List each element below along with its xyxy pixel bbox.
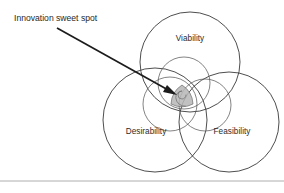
callout-leader-line [57, 28, 170, 91]
label-desirability: Desirability [126, 127, 167, 136]
venn-diagram-canvas: Viability Desirability Feasibility [0, 0, 284, 193]
label-feasibility: Feasibility [214, 127, 252, 136]
label-viability: Viability [176, 34, 205, 43]
venn-diagram-figure: Viability Desirability Feasibility Innov… [0, 0, 284, 193]
sweet-spot-group[interactable] [171, 85, 193, 107]
callout-label: Innovation sweet spot [14, 13, 97, 24]
circle-feasibility[interactable] [179, 72, 279, 172]
sweet-spot-region[interactable] [171, 85, 193, 107]
arrow-head-icon [163, 85, 177, 95]
